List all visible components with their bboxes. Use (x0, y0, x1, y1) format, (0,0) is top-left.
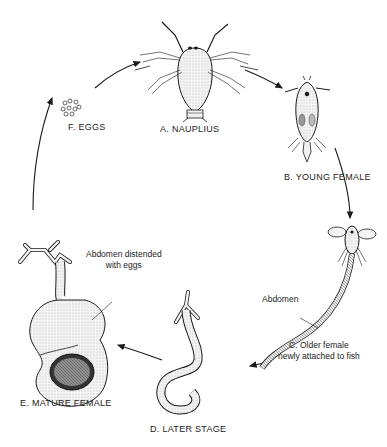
label-abdomen: Abdomen (262, 294, 298, 305)
label-eggs: F. EGGS (68, 122, 106, 132)
label-older-female: C. Older female newly attached to fish (278, 340, 360, 362)
arrow-a-to-b (245, 70, 282, 88)
young-female-illustration (285, 76, 330, 162)
label-older-female-line1: C. Older female (278, 340, 360, 351)
label-later-stage: D. LATER STAGE (150, 424, 226, 434)
nauplius-illustration (135, 22, 258, 122)
label-older-female-line2: newly attached to fish (278, 351, 360, 362)
later-stage-illustration (161, 292, 198, 410)
arrow-d-to-e (118, 345, 162, 360)
label-distended-line2: with eggs (86, 260, 162, 271)
label-young-female: B. YOUNG FEMALE (284, 172, 371, 182)
label-abdomen-distended: Abdomen distended with eggs (86, 249, 162, 271)
arrow-b-to-c (335, 148, 350, 218)
arrow-e-to-f (33, 98, 52, 210)
life-cycle-diagram (0, 0, 387, 447)
label-mature-female: E. MATURE FEMALE (20, 398, 112, 408)
arrow-f-to-a (95, 62, 140, 88)
eggs-illustration (61, 99, 81, 116)
label-nauplius: A. NAUPLIUS (160, 124, 219, 134)
label-distended-line1: Abdomen distended (86, 249, 162, 260)
